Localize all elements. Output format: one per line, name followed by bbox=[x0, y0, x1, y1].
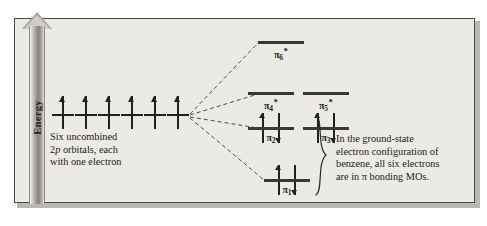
mo-label-pi1: π1 bbox=[264, 184, 310, 197]
energy-level-line bbox=[303, 92, 349, 95]
ao-caption-line-1: Six uncombined bbox=[50, 131, 117, 142]
energy-level-line bbox=[264, 179, 310, 182]
electron-arrowhead-icon bbox=[151, 96, 157, 102]
atomic-orbital-caption: Six uncombined 2p orbitals, each with on… bbox=[50, 131, 182, 169]
mo-label-pi2: π2 bbox=[248, 132, 294, 145]
mo-label-subscript: 2 bbox=[272, 136, 276, 145]
mo-label-pi5-star: π5* bbox=[303, 97, 349, 113]
electron-arrowhead-icon bbox=[82, 96, 88, 102]
note-line-4-pre: are in bbox=[336, 171, 362, 182]
mo-label-subscript: 6 bbox=[279, 53, 283, 62]
atomic-orbital-6 bbox=[167, 96, 189, 130]
mo-label-star: * bbox=[329, 97, 334, 107]
electron-arrowhead-icon bbox=[105, 96, 111, 102]
arrow-head-icon bbox=[259, 113, 265, 118]
mo-label-subscript: 4 bbox=[269, 104, 273, 113]
note-line-2: electron configuration of bbox=[336, 146, 438, 157]
note-line-3: benzene, all six electrons bbox=[336, 158, 440, 169]
atomic-orbital-1 bbox=[52, 96, 74, 130]
ground-state-note: In the ground-state electron configurati… bbox=[336, 133, 476, 183]
arrow-head-icon bbox=[275, 165, 281, 170]
mo-label-pi4-star: π4* bbox=[248, 97, 294, 113]
atomic-orbital-4 bbox=[121, 96, 143, 130]
ao-caption-line-3: with one electron bbox=[50, 156, 121, 167]
mo-label-subscript: 5 bbox=[324, 104, 328, 113]
mo-label-subscript: 1 bbox=[288, 188, 292, 197]
atomic-orbital-2 bbox=[75, 96, 97, 130]
mo-label-pi6-star: π6* bbox=[258, 46, 304, 62]
mo-label-star: * bbox=[284, 46, 289, 56]
energy-level-line bbox=[248, 127, 294, 130]
energy-axis-label: Energy bbox=[32, 82, 43, 154]
mo-label-star: * bbox=[274, 97, 279, 107]
note-line-4-post: bonding MOs. bbox=[367, 171, 429, 182]
note-line-1: In the ground-state bbox=[336, 133, 414, 144]
benzene-mo-diagram: Energy bbox=[0, 0, 487, 226]
ao-caption-line-2-post: orbitals, each bbox=[60, 144, 117, 155]
energy-level-line bbox=[258, 41, 304, 44]
electron-arrowhead-icon bbox=[59, 96, 65, 102]
electron-arrowhead-icon bbox=[174, 96, 180, 102]
atomic-orbital-3 bbox=[98, 96, 120, 130]
electron-arrowhead-icon bbox=[128, 96, 134, 102]
energy-axis: Energy bbox=[22, 8, 52, 204]
energy-level-line bbox=[248, 92, 294, 95]
atomic-orbital-5 bbox=[144, 96, 166, 130]
bonding-mo-brace bbox=[313, 114, 329, 196]
